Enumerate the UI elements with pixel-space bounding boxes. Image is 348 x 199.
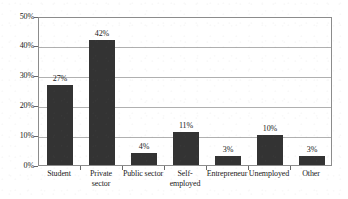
bar-slot: 4% xyxy=(123,18,165,165)
y-tick-mark xyxy=(34,136,38,137)
bar-value-label: 3% xyxy=(307,145,317,154)
bar[interactable] xyxy=(131,153,157,165)
bar-value-label: 11% xyxy=(179,121,193,130)
bar[interactable] xyxy=(215,156,241,165)
bar-value-label: 10% xyxy=(263,124,277,133)
bar-value-label: 27% xyxy=(53,74,67,83)
y-tick-mark xyxy=(34,106,38,107)
bar-value-label: 4% xyxy=(139,142,149,151)
bar[interactable] xyxy=(89,40,115,165)
y-tick-label: 0% xyxy=(4,162,34,170)
bar[interactable] xyxy=(47,85,73,165)
bar-slot: 11% xyxy=(165,18,207,165)
y-tick-mark xyxy=(34,46,38,47)
bar-slot: 42% xyxy=(81,18,123,165)
bar-slot: 27% xyxy=(39,18,81,165)
bar-slot: 3% xyxy=(291,18,333,165)
bar[interactable] xyxy=(299,156,325,165)
y-tick-label: 30% xyxy=(4,72,34,80)
bar-slot: 3% xyxy=(207,18,249,165)
bar[interactable] xyxy=(257,135,283,165)
y-tick-label: 10% xyxy=(4,132,34,140)
y-tick-mark xyxy=(34,17,38,18)
bar-value-label: 42% xyxy=(95,29,109,38)
y-tick-label: 20% xyxy=(4,102,34,110)
bar[interactable] xyxy=(173,132,199,165)
bar-chart: 27%42%4%11%3%10%3% 0%10%20%30%40%50% Stu… xyxy=(0,0,348,199)
y-tick-label: 40% xyxy=(4,42,34,50)
x-tick-label: Other xyxy=(286,169,336,179)
y-tick-mark xyxy=(34,166,38,167)
plot-area: 27%42%4%11%3%10%3% xyxy=(38,17,332,166)
y-tick-label: 50% xyxy=(4,13,34,21)
bar-slot: 10% xyxy=(249,18,291,165)
bar-value-label: 3% xyxy=(223,145,233,154)
y-tick-mark xyxy=(34,76,38,77)
